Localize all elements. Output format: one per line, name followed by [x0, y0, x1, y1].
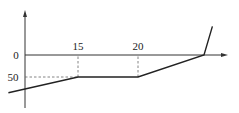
guides [25, 55, 138, 77]
y-axis-arrow [23, 10, 27, 17]
chart: 0 50 15 20 [0, 0, 239, 113]
y-tick-label-50: 50 [8, 71, 20, 83]
axes [23, 10, 228, 108]
y-tick-label-0: 0 [13, 49, 19, 61]
x-tick-label-20: 20 [133, 40, 145, 52]
x-tick-label-15: 15 [73, 40, 85, 52]
x-axis-arrow [221, 53, 228, 57]
series [8, 26, 212, 92]
series-line-piecewise [8, 26, 212, 92]
